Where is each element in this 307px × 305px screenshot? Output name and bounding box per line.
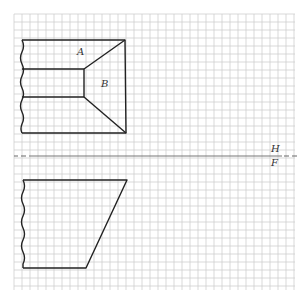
inner-rectangle — [22, 69, 84, 97]
graph-paper-grid — [14, 14, 295, 290]
surface-label-a: A — [76, 46, 84, 57]
fold-label-h: H — [270, 143, 280, 154]
surface-label-b: B — [100, 78, 108, 89]
front-view — [22, 180, 128, 268]
front-view-outline — [23, 180, 127, 268]
drawing-canvas: A B H F — [0, 0, 307, 305]
fold-label-f: F — [270, 157, 279, 168]
edge-upper-diagonal — [84, 40, 125, 69]
